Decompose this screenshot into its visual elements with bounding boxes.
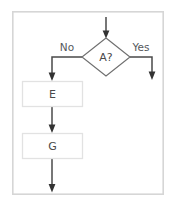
process-g-label: G [48,140,57,153]
node-process-g[interactable]: G [23,134,83,159]
flowchart-canvas: A? E G No Yes [0,0,176,204]
process-e-label: E [49,88,56,101]
decision-a-label: A? [99,51,113,64]
edge-label-yes: Yes [132,41,150,53]
flowchart-diagram: A? E G No Yes [0,0,176,204]
node-process-e[interactable]: E [23,82,83,107]
edge-label-no: No [60,41,74,53]
